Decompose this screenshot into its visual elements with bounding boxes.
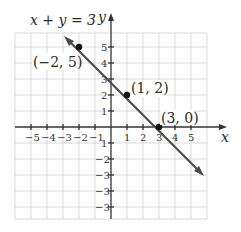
x-tick-label: −4 [41, 132, 56, 143]
x-tick-label: 1 [124, 132, 130, 143]
y-tick-label: 5 [101, 42, 107, 53]
y-tick-label: 4 [101, 58, 107, 69]
y-tick-label: −3 [95, 202, 110, 213]
y-axis-label: y [97, 9, 107, 25]
y-tick-label: 1 [101, 138, 107, 149]
linear-equation-graph: x y −5 −4 −3 −2 −1 1 2 3 4 5 1 2 3 4 5 1… [0, 0, 241, 232]
y-tick-label: −3 [95, 170, 110, 181]
equation-line [64, 36, 204, 176]
point-label: (3, 0) [161, 110, 199, 126]
point-neg2-5 [76, 44, 82, 50]
x-tick-label: −3 [57, 132, 72, 143]
point-1-2 [124, 92, 130, 98]
x-tick-label: −2 [73, 132, 88, 143]
y-axis-arrow-icon [108, 13, 114, 21]
graph-canvas: x y −5 −4 −3 −2 −1 1 2 3 4 5 1 2 3 4 5 1… [0, 0, 241, 232]
y-tick-label: −2 [95, 154, 110, 165]
point-label: (1, 2) [131, 80, 169, 96]
y-tick-label: −3 [95, 186, 110, 197]
x-tick-label: 2 [140, 132, 146, 143]
x-tick-label: −5 [25, 132, 40, 143]
point-label: (−2, 5) [33, 54, 82, 70]
x-tick-label: 4 [172, 132, 178, 143]
x-axis-label: x [221, 129, 229, 145]
x-tick-label: 5 [188, 132, 194, 143]
equation-label: x + y = 3 [30, 12, 96, 28]
y-tick-label: 1 [101, 106, 107, 117]
y-tick-label: 2 [101, 90, 107, 101]
